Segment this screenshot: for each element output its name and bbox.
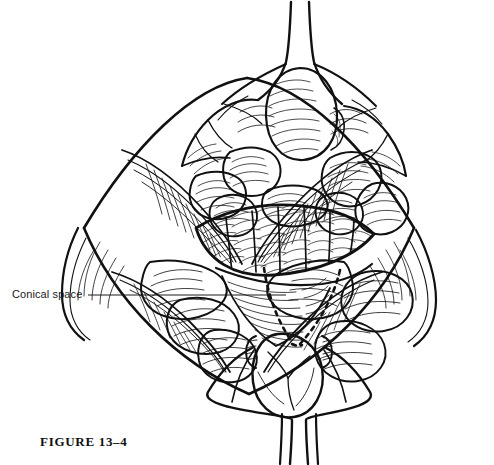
figure-caption: FIGURE 13–4 (40, 434, 128, 450)
figure-page: Conical space FIGURE 13–4 (0, 0, 494, 465)
conical-space-label: Conical space (12, 288, 82, 300)
annotation-leader-layer (0, 0, 494, 465)
